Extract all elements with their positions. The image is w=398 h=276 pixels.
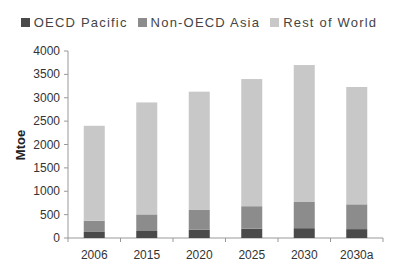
- bar-non-oecd-asia-2025: [241, 206, 262, 228]
- bar-oecd-pacific-2006: [84, 232, 105, 238]
- y-tick-label: 0: [53, 231, 60, 245]
- x-tick-label: 2020: [186, 248, 213, 262]
- bar-oecd-pacific-2025: [241, 229, 262, 238]
- bar-non-oecd-asia-2030a: [346, 204, 367, 229]
- bar-oecd-pacific-2030a: [346, 229, 367, 238]
- x-tick-label: 2030: [291, 248, 318, 262]
- bar-oecd-pacific-2030: [294, 228, 315, 238]
- bar-oecd-pacific-2015: [136, 231, 157, 238]
- bar-rest-of-world-2030: [294, 65, 315, 202]
- bar-non-oecd-asia-2020: [189, 210, 210, 230]
- x-tick-label: 2015: [133, 248, 160, 262]
- y-axis: 05001000150020002500300035004000: [33, 44, 68, 245]
- y-tick-label: 1000: [33, 184, 60, 198]
- bar-rest-of-world-2025: [241, 79, 262, 206]
- y-tick-label: 1500: [33, 161, 60, 175]
- y-axis-title: Mtoe: [13, 130, 28, 160]
- bar-rest-of-world-2015: [136, 102, 157, 214]
- x-axis: 200620152020202520302030a: [68, 238, 383, 262]
- bars: [84, 65, 368, 238]
- bar-oecd-pacific-2020: [189, 230, 210, 238]
- bar-rest-of-world-2020: [189, 92, 210, 210]
- chart: 05001000150020002500300035004000 2006201…: [0, 0, 398, 276]
- y-tick-label: 2500: [33, 114, 60, 128]
- y-tick-label: 3500: [33, 67, 60, 81]
- bar-non-oecd-asia-2006: [84, 221, 105, 232]
- x-tick-label: 2025: [238, 248, 265, 262]
- y-tick-label: 3000: [33, 91, 60, 105]
- y-tick-label: 500: [40, 208, 60, 222]
- y-tick-label: 4000: [33, 44, 60, 58]
- bar-rest-of-world-2030a: [346, 87, 367, 204]
- y-tick-label: 2000: [33, 138, 60, 152]
- bar-non-oecd-asia-2030: [294, 202, 315, 228]
- x-tick-label: 2006: [81, 248, 108, 262]
- bar-non-oecd-asia-2015: [136, 214, 157, 231]
- x-tick-label: 2030a: [340, 248, 374, 262]
- bar-rest-of-world-2006: [84, 126, 105, 221]
